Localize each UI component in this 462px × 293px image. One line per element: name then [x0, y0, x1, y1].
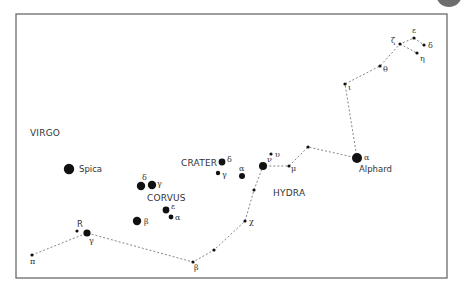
star-label-hydra-upsilon: υ — [275, 150, 280, 159]
star-hydra-nu — [259, 162, 267, 170]
star-name-alphard: Alphard — [359, 164, 392, 174]
star-hydra-delta — [422, 43, 425, 46]
star-label-hydra-epsilon: ε — [412, 26, 416, 35]
star-label-hydra-zeta: ζ — [391, 36, 396, 45]
star-label-hydra-pi: π — [30, 257, 35, 266]
star-hydra-chi — [243, 219, 246, 222]
star-label-hydra-R: R — [77, 219, 83, 229]
star-label-hydra-eta: η — [420, 54, 425, 63]
star-label-hydra-theta: θ — [383, 65, 388, 74]
star-corvus-epsilon — [163, 207, 170, 214]
star-label-hydra-delta: δ — [428, 41, 433, 50]
star-hydra-R — [75, 229, 78, 232]
star-hydra-epsilon — [412, 36, 415, 39]
star-label-corvus-delta: δ — [142, 173, 147, 182]
star-hydra-mid2 — [252, 188, 255, 191]
star-label-hydra-iota: ι — [348, 83, 351, 92]
star-label-crater-delta: δ — [227, 155, 232, 164]
star-label-corvus-beta: β — [144, 217, 149, 226]
star-label-hydra-mu: μ — [291, 164, 296, 173]
star-corvus-beta — [133, 217, 141, 225]
star-corvus-gamma — [148, 181, 156, 189]
star-hydra-mid1 — [306, 145, 309, 148]
star-chart: δγεαβδγαανυμχβγRπιθζεδη VIRGO CORVUS CRA… — [0, 0, 462, 293]
star-hydra-eta — [415, 51, 418, 54]
star-label-hydra-beta: β — [194, 263, 199, 272]
star-label-crater-gamma: γ — [222, 170, 227, 179]
star-label-corvus-alpha: α — [175, 213, 181, 222]
star-spica — [64, 164, 74, 174]
star-corvus-delta — [137, 182, 145, 190]
star-label-hydra-chi: χ — [249, 217, 254, 226]
star-label-corvus-gamma: γ — [157, 179, 162, 188]
star-label-crater-alpha: α — [239, 164, 245, 173]
constellation-label-crater: CRATER — [181, 158, 217, 168]
star-label-corvus-epsilon: ε — [171, 202, 175, 211]
star-hydra-theta — [378, 64, 381, 67]
star-hydra-alphard — [352, 153, 362, 163]
constellation-label-virgo: VIRGO — [30, 128, 60, 138]
star-label-hydra-nu: ν — [267, 155, 272, 164]
star-label-hydra-gamma: γ — [89, 236, 94, 245]
star-hydra-zeta — [398, 42, 401, 45]
star-crater-delta — [219, 159, 226, 166]
star-crater-alpha — [239, 173, 245, 179]
chart-frame — [16, 14, 447, 278]
star-corvus-alpha — [169, 215, 174, 220]
constellation-label-corvus: CORVUS — [147, 193, 186, 203]
corner-badge — [436, 0, 462, 7]
star-hydra-mid3 — [212, 248, 215, 251]
star-label-hydra-alphard: α — [364, 153, 370, 162]
star-crater-gamma — [216, 171, 220, 175]
star-hydra-iota — [343, 82, 346, 85]
constellation-label-hydra: HYDRA — [273, 188, 306, 198]
star-name-spica: Spica — [79, 164, 102, 174]
